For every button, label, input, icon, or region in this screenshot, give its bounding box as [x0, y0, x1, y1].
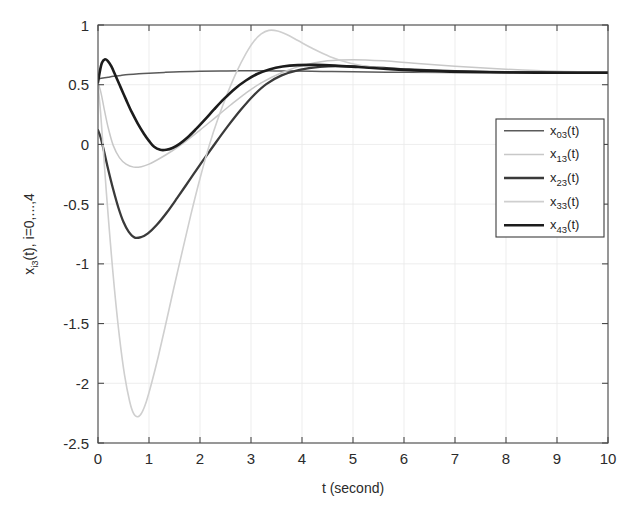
x-tick-label: 9 [553, 450, 561, 467]
figure-container: 012345678910 -2.5-2-1.5-1-0.500.51 t (se… [0, 0, 644, 511]
chart-legend[interactable]: x03(t)x13(t)x23(t)x33(t)x43(t) [496, 119, 604, 237]
x-tick-label: 3 [247, 450, 255, 467]
x-tick-label: 0 [94, 450, 102, 467]
y-tick-label: 0.5 [68, 76, 89, 93]
x-tick-label: 6 [400, 450, 408, 467]
y-tick-label: 1 [81, 17, 89, 34]
x-tick-label: 4 [298, 450, 306, 467]
x-tick-label: 10 [600, 450, 617, 467]
y-tick-label: 0 [81, 136, 89, 153]
chart-background [0, 0, 644, 511]
y-tick-label: -1 [76, 255, 89, 272]
x-tick-label: 1 [145, 450, 153, 467]
x-axis-title: t (second) [322, 480, 384, 496]
y-tick-label: -2 [76, 375, 89, 392]
x-tick-label: 2 [196, 450, 204, 467]
line-chart: 012345678910 -2.5-2-1.5-1-0.500.51 t (se… [0, 0, 644, 511]
y-tick-label: -2.5 [63, 435, 89, 452]
x-axis-title-text: t (second) [322, 480, 384, 496]
x-tick-label: 7 [451, 450, 459, 467]
x-tick-label: 8 [502, 450, 510, 467]
x-tick-label: 5 [349, 450, 357, 467]
y-tick-label: -1.5 [63, 315, 89, 332]
y-tick-label: -0.5 [63, 196, 89, 213]
